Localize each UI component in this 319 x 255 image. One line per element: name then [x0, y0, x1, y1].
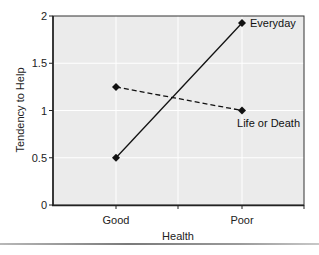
y-tick-label: 0.5: [32, 152, 47, 164]
y-tick-label: 0: [41, 199, 47, 211]
y-tick-label: 1: [41, 105, 47, 117]
x-tick-label-poor: Poor: [230, 214, 254, 226]
x-tick-label-good: Good: [103, 214, 130, 226]
y-tick-label: 1.5: [32, 57, 47, 69]
bottom-separator: [0, 243, 319, 245]
y-axis-title: Tendency to Help: [14, 68, 26, 153]
y-tick-label: 2: [41, 10, 47, 22]
chart: 2 1.5 1 0.5 0 Good Poor Health Tendency …: [0, 0, 319, 255]
x-axis-title: Health: [162, 230, 194, 242]
series-label-everyday: Everyday: [250, 17, 296, 29]
y-tick-labels: 2 1.5 1 0.5 0: [32, 10, 47, 211]
series-label-life-or-death: Life or Death: [237, 117, 300, 129]
